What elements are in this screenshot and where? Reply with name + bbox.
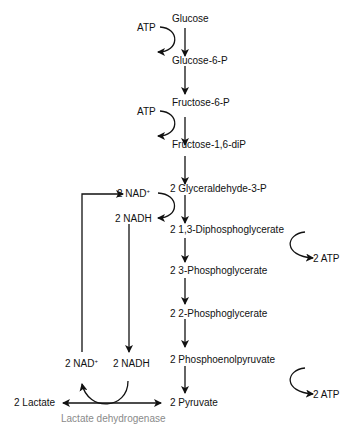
- metabolite-3-phosphoglycerate: 2 3-Phosphoglycerate: [170, 265, 267, 277]
- product-lactate: 2 Lactate: [14, 397, 55, 409]
- nadh-top: 2 NADH: [115, 213, 152, 225]
- arrow-atp-out-1: [290, 232, 313, 258]
- metabolite-2-phosphoglycerate: 2 2-Phosphoglycerate: [170, 308, 267, 320]
- atp-input-1: ATP: [137, 22, 156, 34]
- metabolite-glucose: Glucose: [172, 13, 209, 25]
- metabolite-glucose-6-p: Glucose-6-P: [172, 55, 228, 67]
- arrow-nad-to-nadh: [158, 193, 175, 218]
- atp-output-1: 2 ATP: [313, 253, 340, 265]
- metabolite-phosphoenolpyruvate: 2 Phosphoenolpyruvate: [170, 354, 275, 366]
- arrow-atp-in-2: [158, 111, 175, 136]
- atp-input-2: ATP: [137, 106, 156, 118]
- metabolite-fructose-1-6-dip: Fructose-1,6-diP: [172, 139, 246, 151]
- metabolite-pyruvate: 2 Pyruvate: [170, 397, 218, 409]
- metabolite-fructose-6-p: Fructose-6-P: [172, 97, 230, 109]
- metabolite-glyceraldehyde-3-p: 2 Glyceraldehyde-3-P: [170, 183, 267, 195]
- arrow-atp-out-2: [290, 368, 313, 394]
- nad-plus-bottom: 2 NAD+: [65, 358, 98, 370]
- atp-output-2: 2 ATP: [313, 389, 340, 401]
- arrow-atp-in-1: [158, 27, 175, 52]
- nadh-bottom: 2 NADH: [113, 358, 150, 370]
- metabolite-1-3-diphosphoglycerate: 2 1,3-Diphosphoglycerate: [170, 224, 284, 236]
- arrow-nadh-to-nad-bottom: [82, 381, 128, 404]
- enzyme-lactate-dehydrogenase: Lactate dehydrogenase: [61, 413, 166, 425]
- nad-plus-top: 2 NAD+: [117, 188, 150, 200]
